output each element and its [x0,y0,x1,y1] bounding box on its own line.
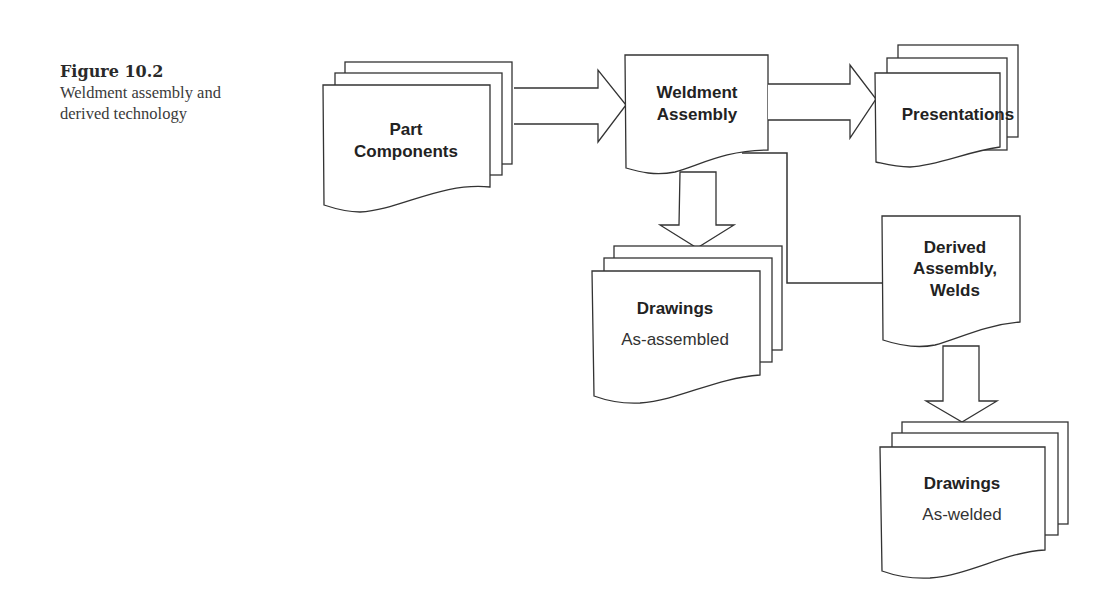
derived-line1: Derived [924,238,986,257]
node-drawings-welded: Drawings As-welded [880,422,1068,578]
node-derived-assembly: Derived Assembly, Welds [882,216,1020,347]
weldment-line2: Assembly [657,105,738,124]
part-components-line2: Components [354,142,458,161]
node-part-components: Part Components [323,62,512,212]
node-drawings-assembled: Drawings As-assembled [592,246,782,403]
derived-line2: Assembly, [913,259,997,278]
drawings-assembled-line1: Drawings [637,299,714,318]
arrow-weldment-to-drawings-assembled [660,172,734,248]
presentations-label: Presentations [902,105,1014,124]
arrow-derived-to-drawings-welded [926,346,997,422]
weldment-line1: Weldment [657,83,738,102]
drawings-assembled-line2: As-assembled [621,330,729,349]
node-weldment-assembly: Weldment Assembly [625,55,768,174]
weldment-diagram: Part Components Weldment Assembly Presen… [0,0,1120,596]
node-presentations: Presentations [875,45,1018,167]
drawings-welded-line1: Drawings [924,474,1001,493]
part-components-line1: Part [389,120,422,139]
arrow-part-to-weldment [514,70,626,142]
derived-line3: Welds [930,281,980,300]
arrow-weldment-to-presentations [768,65,876,138]
drawings-welded-line2: As-welded [922,505,1001,524]
